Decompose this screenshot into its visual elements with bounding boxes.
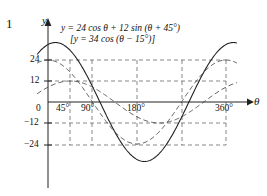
y-axis-arrow [45, 18, 52, 26]
axes [44, 18, 254, 188]
trig-graph-figure: 1 y θ y = 24 cos θ + 12 sin (θ + 45°) [y… [0, 0, 267, 196]
graph-canvas [0, 0, 267, 196]
x-axis-arrow [247, 99, 254, 106]
